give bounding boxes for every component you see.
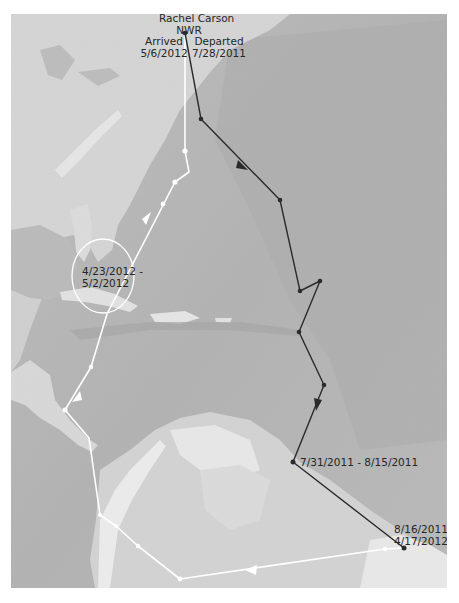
origin-label: Rachel Carson NWR	[159, 14, 219, 36]
wintering-line1: 8/16/2011 -	[394, 523, 447, 535]
map-frame: Rachel Carson NWR Arrived 5/6/2012 Depar…	[11, 14, 447, 588]
wintering-line2: 4/17/2012	[394, 535, 447, 547]
stopover-1-text: 7/31/2011 - 8/15/2011	[300, 456, 418, 468]
wintering-label: 8/16/2011 - 4/17/2012	[394, 523, 447, 547]
caribbean-stopover-line2: 5/2/2012	[82, 277, 143, 289]
caribbean-stopover-label: 4/23/2012 - 5/2/2012	[82, 265, 143, 289]
departed-label-line1: Departed	[191, 35, 247, 47]
stopover-1-label: 7/31/2011 - 8/15/2011	[300, 456, 418, 468]
arrived-label-line1: Arrived	[139, 35, 189, 47]
arrived-label-line2: 5/6/2012	[139, 47, 189, 59]
caribbean-stopover-line1: 4/23/2012 -	[82, 265, 143, 277]
arrived-label: Arrived 5/6/2012	[139, 35, 189, 59]
origin-label-line1: Rachel Carson	[159, 14, 219, 24]
departed-label-line2: 7/28/2011	[191, 47, 247, 59]
relief-map	[11, 14, 447, 588]
relief-grain	[11, 14, 447, 588]
departed-label: Departed 7/28/2011	[191, 35, 247, 59]
